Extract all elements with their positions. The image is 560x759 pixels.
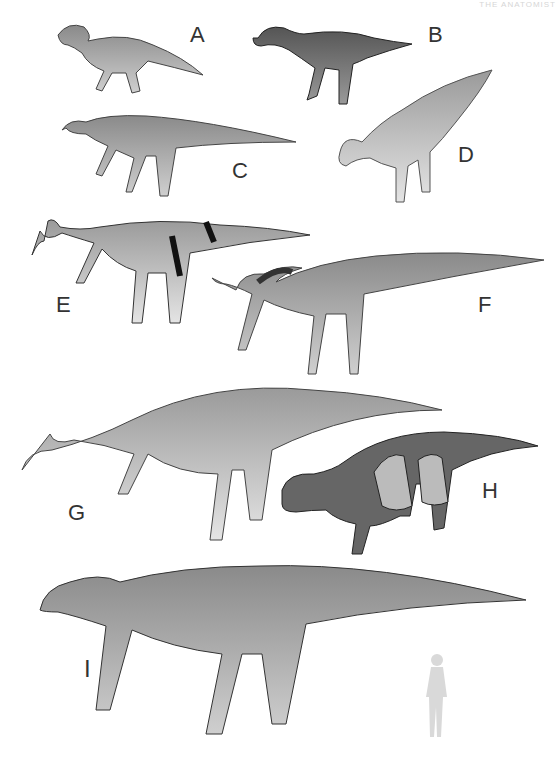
illustration	[0, 0, 560, 759]
dinosaur-b	[253, 27, 412, 104]
dinosaur-plate: THE ANATOMIST	[0, 0, 560, 759]
label-f: F	[478, 292, 491, 318]
dinosaur-e	[32, 220, 310, 323]
label-e: E	[56, 292, 71, 318]
dinosaur-f	[212, 253, 544, 374]
label-h: H	[482, 478, 498, 504]
dinosaur-d	[339, 70, 492, 202]
label-c: C	[232, 158, 248, 184]
label-g: G	[68, 500, 85, 526]
dinosaur-h	[282, 432, 538, 554]
human-silhouette	[426, 654, 447, 737]
label-i: I	[84, 655, 91, 683]
dinosaur-a	[58, 25, 203, 93]
label-a: A	[190, 22, 205, 48]
label-b: B	[428, 22, 443, 48]
dinosaur-i	[40, 566, 526, 734]
dinosaur-c	[62, 116, 296, 196]
label-d: D	[458, 142, 474, 168]
